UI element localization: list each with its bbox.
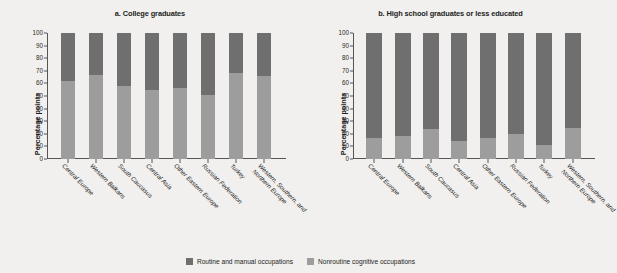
stacked-bar[interactable]	[366, 33, 382, 159]
x-label-slot: Central Europe	[54, 160, 82, 240]
stacked-bar[interactable]	[89, 33, 103, 159]
bar-group[interactable]	[417, 33, 445, 159]
bar-group[interactable]	[474, 33, 502, 159]
stacked-bar[interactable]	[201, 33, 215, 159]
x-label-slot: Western Balkans	[82, 160, 110, 240]
panel-a-title: a. College graduates	[0, 9, 300, 18]
x-label-slot: Turkey	[530, 160, 558, 240]
x-label-slot: South Caucasus	[110, 160, 138, 240]
x-label-slot: Central Asia	[445, 160, 473, 240]
x-label-slot: Other Eastern Europe	[166, 160, 194, 240]
bar-group[interactable]	[54, 33, 82, 159]
bar-group[interactable]	[194, 33, 222, 159]
legend-label: Routine and manual occupations	[197, 258, 293, 265]
x-label-slot: Western, Southern, and Northern Europe	[559, 160, 587, 240]
bar-group[interactable]	[138, 33, 166, 159]
bar-segment-nonroutine-cognitive[interactable]	[257, 76, 271, 159]
panel-b-x-labels: Central EuropeWestern BalkansSouth Cauca…	[353, 160, 591, 240]
legend-label: Nonroutine cognitive occupations	[318, 258, 415, 265]
bar-segment-nonroutine-cognitive[interactable]	[145, 90, 159, 159]
legend-item[interactable]: Routine and manual occupations	[186, 258, 293, 265]
panel-b-plot-area: 1009080706050403020100	[353, 33, 591, 159]
bar-segment-nonroutine-cognitive[interactable]	[89, 75, 103, 159]
bar-group[interactable]	[82, 33, 110, 159]
stacked-bar[interactable]	[565, 33, 581, 159]
chart-legend: Routine and manual occupationsNonroutine…	[0, 258, 601, 265]
bar-segment-nonroutine-cognitive[interactable]	[395, 136, 411, 159]
stacked-bar[interactable]	[536, 33, 552, 159]
panel-a-bars	[47, 33, 282, 159]
bar-segment-nonroutine-cognitive[interactable]	[536, 145, 552, 159]
panel-b-title: b. High school graduates or less educate…	[300, 9, 601, 18]
bar-segment-nonroutine-cognitive[interactable]	[451, 141, 467, 159]
stacked-bar[interactable]	[61, 33, 75, 159]
panel-b-bars	[353, 33, 591, 159]
bar-segment-nonroutine-cognitive[interactable]	[201, 95, 215, 159]
panel-a-x-labels: Central EuropeWestern BalkansSouth Cauca…	[47, 160, 282, 240]
bar-segment-nonroutine-cognitive[interactable]	[117, 86, 131, 159]
stacked-bar[interactable]	[117, 33, 131, 159]
bar-segment-nonroutine-cognitive[interactable]	[565, 128, 581, 160]
bar-group[interactable]	[388, 33, 416, 159]
stacked-bar[interactable]	[173, 33, 187, 159]
x-label-slot: Western Balkans	[388, 160, 416, 240]
legend-swatch-icon	[307, 258, 314, 265]
bar-group[interactable]	[110, 33, 138, 159]
x-label-slot: Russian Federation	[502, 160, 530, 240]
bar-group[interactable]	[166, 33, 194, 159]
panel-college-graduates: a. College graduates Percentage points 1…	[0, 0, 300, 247]
bar-segment-nonroutine-cognitive[interactable]	[173, 88, 187, 159]
stacked-bar[interactable]	[423, 33, 439, 159]
legend-item[interactable]: Nonroutine cognitive occupations	[307, 258, 415, 265]
stacked-bar[interactable]	[257, 33, 271, 159]
bar-group[interactable]	[445, 33, 473, 159]
stacked-bar[interactable]	[480, 33, 496, 159]
bar-segment-nonroutine-cognitive[interactable]	[61, 81, 75, 159]
panel-high-school-graduates: b. High school graduates or less educate…	[300, 0, 601, 247]
panel-a-plot-area: 1009080706050403020100	[47, 33, 282, 159]
x-label-slot: South Caucasus	[417, 160, 445, 240]
x-label-slot: Central Europe	[360, 160, 388, 240]
bar-segment-nonroutine-cognitive[interactable]	[423, 129, 439, 159]
stacked-bar[interactable]	[451, 33, 467, 159]
bar-group[interactable]	[559, 33, 587, 159]
bar-group[interactable]	[250, 33, 278, 159]
x-label-slot: Turkey	[222, 160, 250, 240]
bar-segment-nonroutine-cognitive[interactable]	[229, 73, 243, 159]
bar-group[interactable]	[222, 33, 250, 159]
stacked-bar[interactable]	[229, 33, 243, 159]
stacked-bar[interactable]	[508, 33, 524, 159]
x-label-slot: Central Asia	[138, 160, 166, 240]
x-axis-category-label: Turkey	[537, 162, 556, 181]
x-label-slot: Russian Federation	[194, 160, 222, 240]
x-axis-category-label: Turkey	[229, 162, 248, 181]
bar-group[interactable]	[360, 33, 388, 159]
x-label-slot: Other Eastern Europe	[474, 160, 502, 240]
x-axis-category-label: Western, Southern, and Northern Europe	[560, 162, 617, 220]
bar-segment-nonroutine-cognitive[interactable]	[480, 138, 496, 159]
stacked-bar[interactable]	[145, 33, 159, 159]
bar-segment-nonroutine-cognitive[interactable]	[508, 134, 524, 159]
legend-swatch-icon	[186, 258, 193, 265]
bar-group[interactable]	[502, 33, 530, 159]
stacked-bar[interactable]	[395, 33, 411, 159]
bar-group[interactable]	[530, 33, 558, 159]
x-label-slot: Western, Southern, and Northern Europe	[250, 160, 278, 240]
bar-segment-nonroutine-cognitive[interactable]	[366, 138, 382, 159]
